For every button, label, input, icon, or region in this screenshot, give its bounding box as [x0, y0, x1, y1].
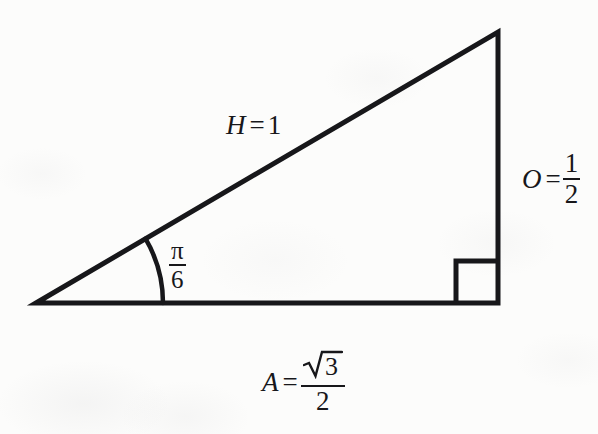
right-angle-marker-icon	[456, 261, 498, 303]
adjacent-denominator: 2	[314, 387, 332, 415]
opposite-variable: O	[522, 166, 542, 193]
adjacent-side-label: A = 3 2	[262, 349, 345, 415]
angle-measure-label: π 6	[169, 238, 186, 292]
adjacent-variable: A	[262, 369, 279, 396]
radical-sign-glyph: 3	[303, 349, 343, 379]
triangle-figure: H=1 O = 1 2 π 6 A = 3	[0, 0, 598, 434]
angle-fraction: π 6	[169, 238, 186, 292]
opposite-equals: =	[546, 166, 561, 193]
opposite-denominator: 2	[563, 180, 581, 208]
angle-denominator: 6	[169, 266, 186, 292]
opposite-fraction: 1 2	[563, 150, 581, 208]
adjacent-numerator: 3	[301, 349, 345, 385]
hypotenuse-equals: =	[250, 110, 265, 140]
opposite-side-label: O = 1 2	[522, 150, 580, 208]
hypotenuse-label: H=1	[226, 112, 281, 139]
hypotenuse-value: 1	[268, 110, 282, 140]
radicand-value: 3	[325, 352, 338, 379]
angle-arc-icon	[146, 239, 164, 303]
adjacent-fraction: 3 2	[301, 349, 345, 415]
angle-numerator: π	[169, 238, 186, 264]
hypotenuse-variable: H	[226, 110, 246, 140]
adjacent-equals: =	[283, 369, 298, 396]
triangle-outline	[36, 32, 498, 303]
opposite-numerator: 1	[563, 150, 581, 178]
square-root-icon: 3	[303, 349, 343, 379]
